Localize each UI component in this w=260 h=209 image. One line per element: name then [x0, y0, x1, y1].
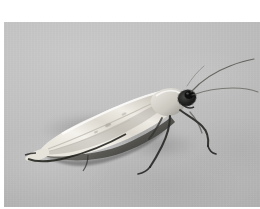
antennae: [187, 59, 258, 95]
antenna-lower: [192, 88, 258, 95]
far-leg: [190, 112, 202, 133]
moth-photograph: [4, 22, 260, 207]
antenna-base-upper: [187, 66, 204, 86]
page-root: [0, 0, 260, 209]
moth-figure: [4, 22, 260, 207]
midleg-tarsus: [138, 167, 150, 174]
antenna-upper: [191, 59, 254, 92]
foreleg: [180, 110, 208, 146]
eye-catchlight: [186, 93, 189, 95]
foreleg-tarsus: [208, 146, 216, 154]
